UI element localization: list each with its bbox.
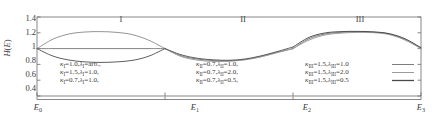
plot-canvas	[0, 0, 437, 122]
chart-figure: H(E) 1.4 1.2 1 0.8 0.6 0.4 E0 E1 E2 E3 I…	[0, 0, 437, 122]
axes-frame	[37, 17, 421, 96]
data-curves	[37, 31, 421, 62]
axis-ticks	[37, 17, 421, 100]
